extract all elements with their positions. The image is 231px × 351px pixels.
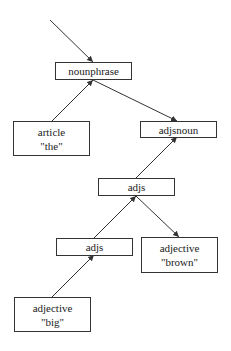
node-article: article "the" bbox=[13, 121, 90, 156]
node-value: "brown" bbox=[142, 255, 217, 269]
node-label: adjective bbox=[142, 241, 217, 255]
node-label: adjsnoun bbox=[141, 123, 216, 137]
edge-input-to-nounphrase bbox=[50, 20, 93, 62]
node-label: adjs bbox=[57, 240, 132, 254]
node-nounphrase: nounphrase bbox=[55, 62, 132, 80]
edge-adjs-to-adjsnoun bbox=[136, 137, 177, 178]
node-adjsnoun: adjsnoun bbox=[140, 121, 217, 138]
node-value: "big" bbox=[15, 315, 90, 329]
node-adjective-big: adjective "big" bbox=[14, 297, 91, 332]
node-label: adjective bbox=[15, 301, 90, 315]
node-label: adjs bbox=[99, 180, 174, 194]
node-value: "the" bbox=[14, 139, 89, 153]
node-label: nounphrase bbox=[56, 64, 131, 78]
edge-nounphrase-to-adjsnoun bbox=[93, 80, 177, 121]
node-adjs-upper: adjs bbox=[98, 178, 175, 196]
node-adjective-brown: adjective "brown" bbox=[141, 237, 218, 273]
edge-adjs-lower-to-adjs-upper bbox=[94, 196, 136, 238]
edge-big-to-adjs-lower bbox=[52, 255, 94, 297]
edge-article-to-nounphrase bbox=[52, 80, 93, 121]
edge-adjs-to-brown bbox=[136, 196, 179, 237]
node-label: article bbox=[14, 125, 89, 139]
node-adjs-lower: adjs bbox=[56, 238, 133, 256]
